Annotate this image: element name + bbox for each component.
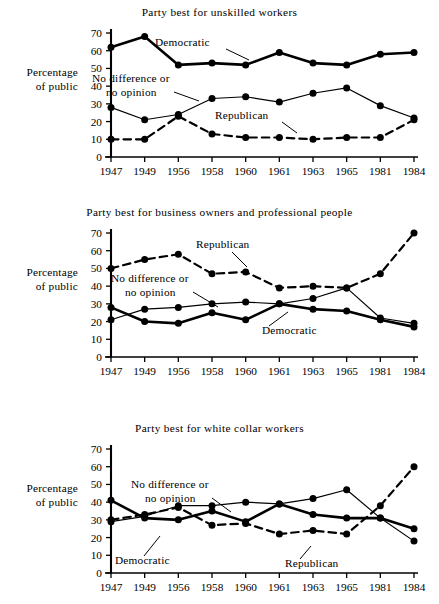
data-point xyxy=(242,93,249,100)
y-axis-tick: 0 xyxy=(96,567,111,579)
x-tick-label: 1963 xyxy=(302,165,325,177)
series-annotation: No difference or xyxy=(111,272,189,284)
x-axis-tick: 1949 xyxy=(133,573,156,593)
x-tick-label: 1956 xyxy=(167,365,190,377)
data-point xyxy=(242,268,249,275)
x-tick-label: 1960 xyxy=(234,581,257,593)
data-point xyxy=(310,527,317,534)
data-point xyxy=(377,316,384,323)
y-axis-tick: 40 xyxy=(91,280,111,292)
data-point xyxy=(276,500,283,507)
data-point xyxy=(377,515,384,522)
plot-area: 0102030405060701947194919561958196019611… xyxy=(0,196,439,392)
x-axis-tick: 1981 xyxy=(369,573,392,593)
x-tick-label: 1961 xyxy=(268,165,291,177)
x-tick-label: 1965 xyxy=(335,581,358,593)
x-tick-label: 1961 xyxy=(268,365,291,377)
x-axis-tick: 1947 xyxy=(100,357,123,377)
x-tick-label: 1947 xyxy=(100,581,123,593)
data-point xyxy=(411,323,418,330)
annotation-label: Democratic xyxy=(262,324,317,336)
data-point xyxy=(411,230,418,237)
y-axis-tick: 40 xyxy=(91,496,111,508)
data-point xyxy=(141,256,148,263)
x-axis-tick: 1958 xyxy=(201,357,224,377)
data-point xyxy=(310,90,317,97)
y-axis-tick: 50 xyxy=(91,478,111,490)
series-democratic xyxy=(108,33,418,68)
x-axis-tick: 1947 xyxy=(100,573,123,593)
data-point xyxy=(209,522,216,529)
data-point xyxy=(343,84,350,91)
y-axis-tick: 20 xyxy=(91,116,111,128)
data-point xyxy=(276,300,283,307)
data-point xyxy=(343,531,350,538)
data-point xyxy=(310,295,317,302)
y-axis-tick: 10 xyxy=(91,333,111,345)
data-point xyxy=(108,265,115,272)
x-axis-tick: 1984 xyxy=(403,157,426,177)
data-point xyxy=(209,309,216,316)
y-tick-label: 20 xyxy=(91,532,103,544)
data-point xyxy=(377,102,384,109)
data-point xyxy=(377,134,384,141)
annotation-label: Democratic xyxy=(115,554,170,566)
data-point xyxy=(141,136,148,143)
annotation-leader-line xyxy=(144,536,160,556)
x-axis-tick: 1956 xyxy=(167,157,190,177)
x-tick-label: 1981 xyxy=(369,581,392,593)
x-tick-label: 1947 xyxy=(100,365,123,377)
annotation-label: no opinion xyxy=(125,286,176,298)
annotation-leader-line xyxy=(174,92,199,101)
y-tick-label: 20 xyxy=(91,316,103,328)
series-annotation: Republican xyxy=(196,238,250,267)
annotation-leader-line xyxy=(232,252,247,267)
series-annotation: no opinion xyxy=(125,286,218,307)
y-tick-label: 10 xyxy=(91,333,103,345)
chart-panel-business-owners: Party best for business owners and profe… xyxy=(0,196,439,392)
data-point xyxy=(209,130,216,137)
annotation-label: Republican xyxy=(196,238,250,250)
x-tick-label: 1984 xyxy=(403,165,426,177)
x-axis-tick: 1960 xyxy=(234,157,257,177)
data-point xyxy=(175,61,182,68)
x-axis-tick: 1961 xyxy=(268,157,291,177)
series-annotation: Republican xyxy=(285,546,339,569)
x-tick-label: 1947 xyxy=(100,165,123,177)
y-tick-label: 40 xyxy=(91,280,103,292)
series-annotation: No difference or xyxy=(131,478,209,490)
y-tick-label: 30 xyxy=(91,98,103,110)
y-tick-label: 60 xyxy=(91,245,103,257)
x-tick-label: 1949 xyxy=(133,165,156,177)
x-tick-label: 1984 xyxy=(403,365,426,377)
data-point xyxy=(108,136,115,143)
x-tick-label: 1958 xyxy=(201,165,224,177)
y-tick-label: 0 xyxy=(96,567,102,579)
y-tick-label: 40 xyxy=(91,496,103,508)
series-annotation: no opinion xyxy=(106,86,199,101)
x-tick-label: 1981 xyxy=(369,365,392,377)
annotation-label: Republican xyxy=(215,109,269,121)
x-axis-tick: 1965 xyxy=(335,157,358,177)
data-point xyxy=(141,33,148,40)
x-axis-tick: 1965 xyxy=(335,573,358,593)
data-point xyxy=(175,251,182,258)
x-tick-label: 1984 xyxy=(403,581,426,593)
data-point xyxy=(175,320,182,327)
data-point xyxy=(343,515,350,522)
data-point xyxy=(343,134,350,141)
data-point xyxy=(141,318,148,325)
x-axis-tick: 1981 xyxy=(369,157,392,177)
annotation-label: Democratic xyxy=(155,36,210,48)
y-axis-tick: 20 xyxy=(91,532,111,544)
x-axis-tick: 1984 xyxy=(403,357,426,377)
annotation-label: No difference or xyxy=(111,272,189,284)
x-axis-tick: 1947 xyxy=(100,157,123,177)
x-axis-tick: 1961 xyxy=(268,573,291,593)
x-tick-label: 1956 xyxy=(167,165,190,177)
x-axis-tick: 1961 xyxy=(268,357,291,377)
series-annotation: Democratic xyxy=(115,536,170,566)
chart-panel-white-collar-workers: Party best for white collar workers Perc… xyxy=(0,414,439,604)
data-point xyxy=(343,307,350,314)
data-point xyxy=(108,104,115,111)
